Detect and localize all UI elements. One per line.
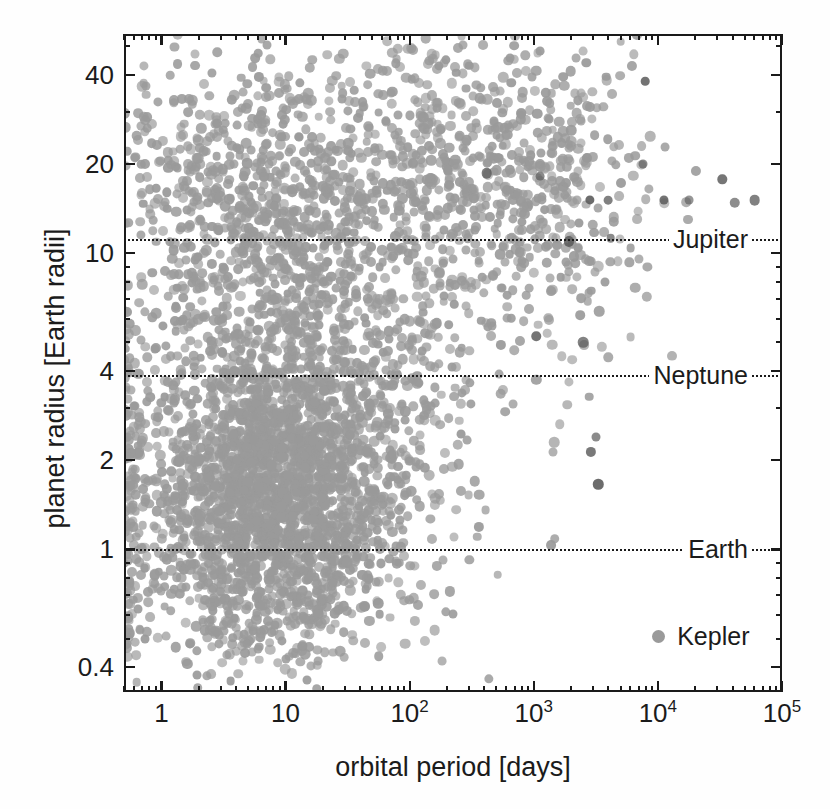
data-point xyxy=(213,225,223,235)
data-point xyxy=(292,575,302,585)
data-point xyxy=(189,435,199,445)
data-point xyxy=(124,651,132,662)
data-point xyxy=(522,291,531,300)
data-point xyxy=(228,633,238,643)
data-point xyxy=(237,73,246,82)
data-point xyxy=(582,101,592,111)
data-point xyxy=(207,623,216,632)
data-point xyxy=(552,240,562,250)
data-point xyxy=(181,343,190,352)
data-point xyxy=(347,609,357,619)
data-point xyxy=(340,198,350,208)
y-tick-label: 20 xyxy=(85,151,114,177)
data-point xyxy=(561,257,570,266)
data-point xyxy=(124,344,129,353)
data-point xyxy=(351,479,361,489)
data-point xyxy=(173,59,183,69)
data-point xyxy=(426,240,436,250)
data-point xyxy=(218,317,228,327)
data-point xyxy=(307,179,316,188)
data-point xyxy=(178,500,187,509)
data-point xyxy=(479,288,488,297)
data-point xyxy=(378,305,388,315)
data-point xyxy=(314,657,323,666)
data-point xyxy=(197,216,206,225)
data-point xyxy=(240,486,249,495)
data-point xyxy=(168,245,179,256)
data-point xyxy=(396,177,406,187)
data-point xyxy=(625,258,634,267)
data-point xyxy=(240,398,251,409)
data-point xyxy=(555,420,565,430)
data-point xyxy=(266,55,275,64)
data-point xyxy=(337,94,346,103)
data-point xyxy=(445,344,455,354)
data-point xyxy=(124,337,131,346)
data-point xyxy=(328,482,338,492)
data-point xyxy=(364,130,373,139)
data-point xyxy=(532,108,543,119)
data-point xyxy=(410,615,420,625)
data-point xyxy=(445,278,454,287)
data-point xyxy=(604,196,613,205)
data-point xyxy=(350,228,359,237)
data-point xyxy=(325,83,335,93)
data-point xyxy=(578,92,588,102)
data-point xyxy=(326,625,335,634)
data-point xyxy=(180,184,190,194)
data-point xyxy=(448,362,457,371)
data-point xyxy=(265,577,276,588)
data-point xyxy=(337,160,348,171)
data-point xyxy=(197,297,206,306)
data-point xyxy=(142,397,151,406)
data-point xyxy=(192,671,201,680)
data-point xyxy=(513,256,523,266)
data-point xyxy=(150,365,160,375)
data-point xyxy=(266,426,276,436)
data-point xyxy=(432,561,442,571)
data-point xyxy=(136,570,146,580)
data-point xyxy=(484,674,493,683)
data-point xyxy=(408,593,419,604)
data-point xyxy=(133,108,143,118)
data-point xyxy=(250,249,260,259)
data-point xyxy=(506,78,515,87)
data-point xyxy=(285,652,294,661)
data-point xyxy=(235,291,245,301)
data-point xyxy=(288,99,298,109)
data-point xyxy=(170,585,179,594)
data-point xyxy=(196,123,206,133)
data-point xyxy=(345,565,355,575)
data-point xyxy=(328,648,337,657)
data-point xyxy=(173,411,183,421)
data-point xyxy=(360,638,370,648)
x-axis-tick-labels: 110102103104105 xyxy=(124,700,782,746)
data-point xyxy=(219,262,228,271)
data-point xyxy=(420,34,431,43)
data-point xyxy=(576,310,586,320)
data-point xyxy=(248,350,257,359)
data-point xyxy=(400,638,411,649)
data-point xyxy=(356,209,366,219)
data-point xyxy=(124,280,133,290)
data-point xyxy=(345,246,354,255)
data-point xyxy=(207,259,217,269)
x-tick-label: 104 xyxy=(639,700,677,726)
data-point xyxy=(588,87,597,96)
data-point xyxy=(400,416,409,425)
data-point xyxy=(187,487,196,496)
data-point xyxy=(485,152,494,161)
data-point xyxy=(450,532,459,541)
data-point xyxy=(397,162,406,171)
data-point xyxy=(152,184,161,193)
data-point xyxy=(301,422,310,431)
data-point xyxy=(530,86,540,96)
data-point xyxy=(308,514,318,524)
data-point xyxy=(437,656,446,665)
data-point xyxy=(239,260,248,269)
data-point xyxy=(549,447,558,456)
data-point xyxy=(169,529,178,538)
data-point xyxy=(601,75,612,86)
data-point xyxy=(449,392,459,402)
data-point xyxy=(175,225,184,234)
